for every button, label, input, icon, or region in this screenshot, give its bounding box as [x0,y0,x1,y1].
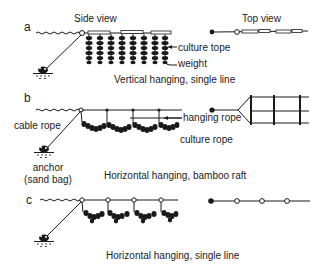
panel-b-caption: Horizontal hanging, bamboo raft [104,170,246,181]
panel-b-letter: b [24,92,31,104]
panel-a-letter: a [24,21,31,33]
panel-a-top-view [210,30,308,35]
hanging-rope-label: hanging rope [183,112,241,123]
anchor-label: anchor [28,162,68,173]
panel-c-letter: c [26,194,32,206]
panel-a-caption: Vertical hanging, single line [114,74,235,85]
top-view-header: Top view [242,13,281,24]
culture-rope-label-a: culture tope [178,42,230,53]
panel-b-side-view [34,108,182,158]
panel-c-top-view [208,198,310,204]
weight-label: weight [178,58,207,69]
diagram-drawing [0,0,329,268]
side-view-header: Side view [74,13,117,24]
panel-c-caption: Horizontal hanging, single line [106,250,239,261]
cable-rope-label: cable rope [14,120,61,131]
culture-rope-label-b: culture rope [180,134,233,145]
sand-bag-label: (sand bag) [18,174,78,185]
panel-a-side-view [33,31,177,79]
panel-c-side-view [34,198,178,247]
